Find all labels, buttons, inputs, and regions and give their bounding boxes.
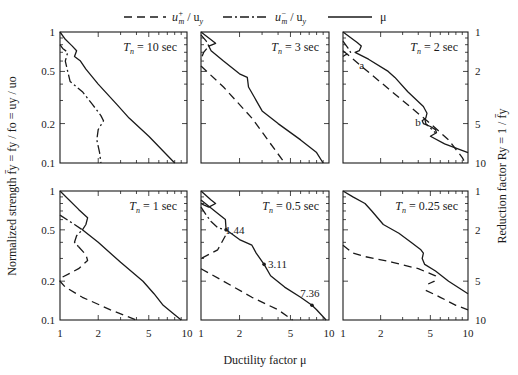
- y-tick-label-left: 0.2: [41, 275, 55, 287]
- annotation-label: 1.44: [225, 224, 245, 236]
- legend-item-um-minus: u−m / uy: [223, 9, 307, 26]
- x-tick-label: 2: [378, 327, 384, 339]
- panel-title: Tn = 3 sec: [271, 40, 319, 56]
- series-u_m+/u_y: [201, 236, 225, 259]
- x-tick-label: 1: [57, 327, 63, 339]
- x-tick-label: 5: [288, 327, 294, 339]
- legend-label-um-minus: u−m / uy: [275, 9, 307, 26]
- series-mu-main: [201, 200, 326, 320]
- series-u_m+/u_y: [60, 247, 137, 320]
- series-u_m+/u_y: [201, 66, 285, 163]
- y-tick-label-left: 1: [50, 26, 56, 38]
- x-tick-label: 1: [340, 327, 346, 339]
- series-u_m+/u_y-2: [426, 290, 468, 310]
- legend-label-um-plus: u+m / uy: [172, 9, 204, 26]
- panel-3: Tn = 2 secab12510: [343, 26, 487, 169]
- y-tick-label-right: 5: [475, 118, 481, 130]
- x-tick-label: 5: [146, 327, 152, 339]
- y-tick-label-left: 1: [50, 185, 56, 197]
- panel-4: Tn = 1 sec10.50.20.112510: [41, 185, 193, 339]
- panel-1: Tn = 10 sec10.50.20.1: [41, 26, 187, 169]
- data-marker: [310, 304, 314, 308]
- x-tick-label: 10: [182, 327, 194, 339]
- annotation-label: 3.11: [268, 258, 287, 270]
- legend-item-um-plus: u+m / uy: [124, 9, 204, 26]
- annotation-label: a: [359, 59, 364, 71]
- panels-grid: Tn = 10 sec10.50.20.1Tn = 3 secTn = 2 se…: [41, 26, 486, 339]
- x-tick-label: 5: [428, 327, 434, 339]
- x-tick-label: 2: [95, 327, 101, 339]
- y-tick-label-left: 0.5: [41, 224, 55, 236]
- figure: u+m / uy u−m / uy μ Ductility factor μ N…: [0, 0, 518, 375]
- panel-title: Tn = 0.25 sec: [395, 199, 458, 215]
- x-tick-label: 1: [198, 327, 204, 339]
- series-u_m-/u_y: [201, 35, 209, 59]
- panel-title: Tn = 0.5 sec: [262, 199, 319, 215]
- y-tick-label-right: 10: [475, 314, 487, 326]
- panel-2: Tn = 3 sec: [201, 32, 329, 163]
- y-axis-title-right: Reduction factor Ry = 1 / f̄y: [495, 109, 509, 244]
- panel-title: Tn = 10 sec: [123, 40, 177, 56]
- series-mu: [201, 191, 216, 207]
- legend-label-mu: μ: [380, 10, 386, 24]
- panel-5: Tn = 0.5 sec1.443.117.3612510: [198, 191, 335, 339]
- annotation-label: b: [415, 116, 421, 128]
- x-tick-label: 2: [237, 327, 243, 339]
- y-tick-label-left: 0.2: [41, 118, 55, 130]
- y-tick-label-right: 1: [475, 185, 481, 197]
- series-u_m+/u_y-low: [201, 269, 293, 320]
- y-tick-label-left: 0.5: [41, 65, 55, 77]
- y-tick-label-right: 10: [475, 157, 487, 169]
- y-tick-label-right: 5: [475, 275, 481, 287]
- data-marker: [262, 263, 266, 267]
- legend: u+m / uy u−m / uy μ: [124, 9, 386, 26]
- x-axis-title: Ductility factor μ: [223, 353, 306, 367]
- y-tick-label-right: 2: [475, 65, 481, 77]
- y-axis-title-left: Normalized strength f̄y = fy / fo = uy /…: [5, 76, 19, 276]
- series-u_m-/u_y: [60, 215, 82, 247]
- annotation-label: 7.36: [300, 287, 320, 299]
- y-tick-label-right: 1: [475, 26, 481, 38]
- x-tick-label: 10: [324, 327, 336, 339]
- panel-title: Tn = 1 sec: [129, 199, 177, 215]
- y-tick-label-left: 0.1: [41, 314, 55, 326]
- x-tick-label: 10: [463, 327, 475, 339]
- panel-title: Tn = 2 sec: [410, 40, 458, 56]
- y-tick-label-right: 2: [475, 224, 481, 236]
- y-tick-label-left: 0.1: [41, 157, 55, 169]
- legend-item-mu: μ: [328, 10, 386, 24]
- panel-6: Tn = 0.25 sec1251012510: [340, 185, 486, 339]
